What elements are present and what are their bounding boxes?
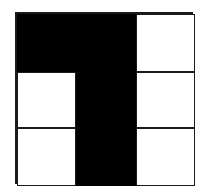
grid-cell-r1-c0-empty	[17, 72, 76, 128]
grid-cell-r2-c2-empty	[136, 128, 195, 186]
grid-cell-r1-c2-empty	[136, 72, 195, 128]
grid-cell-r2-c1-filled	[76, 128, 136, 186]
grid-cell-r0-c2-empty	[136, 14, 195, 72]
grid-cell-r2-c0-empty	[17, 128, 76, 186]
grid-cell-r1-c1-filled	[76, 72, 136, 128]
grid-diagram	[15, 12, 193, 184]
grid-cell-r0-c0-filled	[17, 14, 76, 72]
grid-cell-r0-c1-filled	[76, 14, 136, 72]
